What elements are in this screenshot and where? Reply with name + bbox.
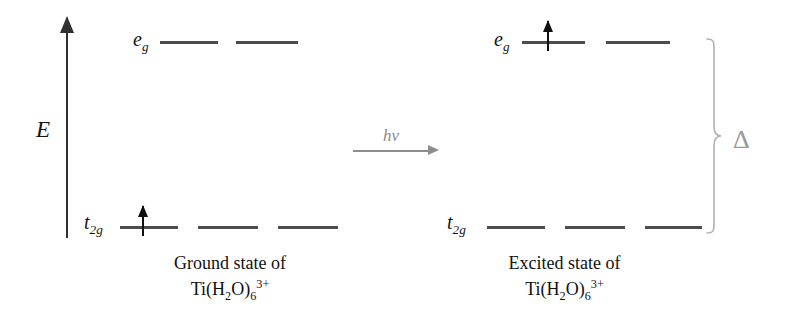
ground-formula-charge: 3+ (256, 277, 269, 291)
ground-formula-element: Ti(H (191, 279, 225, 299)
excited-formula-charge: 3+ (591, 277, 604, 291)
ground-t2g-term-subscript: 2g (90, 222, 103, 237)
excited-t2g-term-subscript: 2g (453, 222, 466, 237)
excited-t2g-orbital-2 (565, 226, 625, 229)
ground-t2g-orbital-2 (198, 226, 258, 229)
transition-arrow-shaft (353, 150, 431, 152)
ground-eg-term-label: eg (133, 28, 148, 55)
ground-t2g-term-label: t2g (84, 211, 103, 238)
energy-axis-label: E (36, 117, 50, 143)
excited-state-caption-line1: Excited state of (462, 252, 667, 276)
photon-energy-label: hv (383, 126, 399, 146)
splitting-bracket-icon (706, 38, 722, 234)
excited-formula-element: Ti(H (525, 279, 559, 299)
excited-state-formula: Ti(H2O)63+ (462, 276, 667, 304)
excited-eg-term-subscript: g (503, 39, 510, 54)
delta-splitting-label: Δ (733, 125, 750, 155)
ground-eg-term-letter: e (133, 28, 142, 50)
ground-t2g-electron-spin-up-icon (142, 206, 144, 236)
energy-axis-line (66, 30, 68, 238)
excited-eg-term-label: eg (494, 28, 509, 55)
ground-t2g-orbital-3 (278, 226, 338, 229)
excited-t2g-term-label: t2g (447, 211, 466, 238)
excited-formula-mid: O) (566, 279, 585, 299)
ground-state-caption: Ground state of Ti(H2O)63+ (130, 252, 330, 303)
ground-t2g-orbital-1 (120, 226, 178, 229)
excited-eg-term-letter: e (494, 28, 503, 50)
ground-state-caption-line1: Ground state of (130, 252, 330, 276)
crystal-field-splitting-diagram: E eg t2g Ground state of Ti(H2O)63+ hv e… (0, 0, 786, 314)
excited-eg-electron-spin-up-icon (547, 21, 549, 51)
ground-state-formula: Ti(H2O)63+ (130, 276, 330, 304)
ground-eg-orbital-2 (236, 41, 298, 44)
excited-t2g-orbital-1 (487, 226, 545, 229)
ground-eg-orbital-1 (160, 41, 218, 44)
excited-state-caption: Excited state of Ti(H2O)63+ (462, 252, 667, 303)
transition-arrowhead-icon (428, 145, 439, 155)
ground-formula-mid: O) (231, 279, 250, 299)
ground-eg-term-subscript: g (142, 39, 149, 54)
excited-t2g-orbital-3 (645, 226, 702, 229)
excited-eg-orbital-1 (522, 41, 585, 44)
excited-eg-orbital-2 (606, 41, 670, 44)
